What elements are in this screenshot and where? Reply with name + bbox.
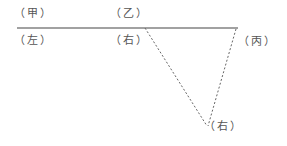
label-you-top: （右） (110, 35, 149, 47)
dashed-line-right (208, 29, 236, 126)
label-jia: （甲） (14, 8, 53, 20)
diagram-lines (0, 0, 287, 146)
label-you-bottom: （右） (204, 121, 243, 133)
diagram: （甲） （乙） （左） （右） （丙） （右） (0, 0, 287, 146)
label-bing: （丙） (238, 36, 277, 48)
dashed-line-left (145, 28, 207, 126)
label-yi: （乙） (110, 8, 149, 20)
label-zuo: （左） (14, 35, 53, 47)
